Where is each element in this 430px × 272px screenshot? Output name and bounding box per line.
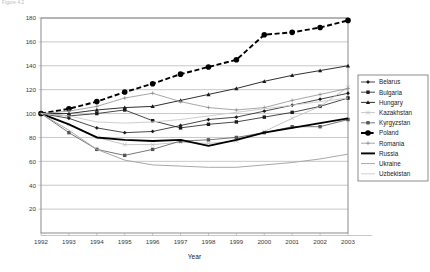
x-tick-label: 1995 <box>118 238 132 245</box>
x-tick-label: 1992 <box>34 238 48 245</box>
x-axis-title: Year <box>188 253 202 260</box>
legend-label: Hungary <box>379 99 404 107</box>
legend-label: Kyrgyzstan <box>379 119 411 127</box>
x-tick-label: 2000 <box>257 238 271 245</box>
y-tick-label: 120 <box>26 86 37 93</box>
x-tick-label: 2002 <box>313 238 327 245</box>
y-tick-label: 160 <box>26 38 37 45</box>
chart-canvas: 20406080100120140160180 1992199319941995… <box>0 0 430 272</box>
x-tick-label: 2001 <box>285 238 299 245</box>
x-tick-label: 1999 <box>229 238 243 245</box>
legend-label: Romania <box>379 140 405 147</box>
y-tick-label: 60 <box>29 158 36 165</box>
series-poland <box>38 18 351 117</box>
gridlines <box>41 18 348 209</box>
series-layer <box>38 18 351 168</box>
y-tick-label: 180 <box>26 14 37 21</box>
legend-label: Uzbekistan <box>379 170 411 177</box>
legend-label: Kazakhstan <box>379 109 412 116</box>
legend-label: Ukraine <box>379 160 401 167</box>
series-russia <box>41 114 348 146</box>
line-chart: 20406080100120140160180 1992199319941995… <box>0 0 430 272</box>
x-tick-label: 1993 <box>62 238 76 245</box>
y-tick-label: 40 <box>29 182 36 189</box>
series-bulgaria <box>39 96 349 129</box>
legend-label: Bulgaria <box>379 89 403 97</box>
x-axis-tick-labels: 1992199319941995199619971998199920002001… <box>34 233 372 245</box>
chart-legend: BelarusBulgariaHungaryKazakhstanKyrgyzst… <box>358 75 428 181</box>
y-tick-label: 100 <box>26 110 37 117</box>
y-tick-label: 20 <box>29 205 36 212</box>
y-tick-label: 80 <box>29 134 36 141</box>
x-tick-label: 1994 <box>90 238 104 245</box>
x-tick-label: 1996 <box>146 238 160 245</box>
series-kyrgyzstan <box>39 112 349 157</box>
x-tick-label: 1998 <box>202 238 216 245</box>
x-tick-label: 1997 <box>174 238 188 245</box>
y-tick-label: 140 <box>26 62 37 69</box>
legend-label: Poland <box>379 129 399 136</box>
legend-label: Russia <box>379 150 399 157</box>
legend-label: Belarus <box>379 78 400 85</box>
x-tick-label: 2003 <box>341 238 355 245</box>
